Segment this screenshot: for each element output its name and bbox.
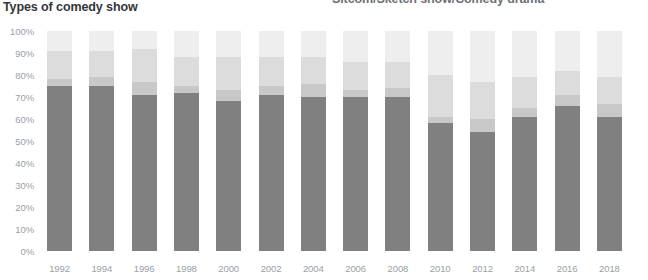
x-axis-tick-label: 2008: [385, 263, 410, 274]
bar-stack: [132, 31, 157, 251]
bar-segment[interactable]: [216, 90, 241, 101]
bar-segment[interactable]: [470, 119, 495, 132]
comedy-show-chart: Types of comedy show Sitcom/Sketch show/…: [0, 0, 648, 280]
bar-stack: [301, 31, 326, 251]
x-axis-tick-label: 2010: [428, 263, 453, 274]
bar-segment[interactable]: [89, 86, 114, 251]
bar-segment[interactable]: [47, 51, 72, 80]
bar-stack: [555, 31, 580, 251]
bar-segment[interactable]: [343, 62, 368, 91]
bar-stack: [343, 31, 368, 251]
bar-group[interactable]: 2016: [555, 0, 580, 280]
bar-segment[interactable]: [385, 62, 410, 88]
bar-group[interactable]: 1992: [47, 0, 72, 280]
x-axis-tick-label: 2000: [216, 263, 241, 274]
bar-segment[interactable]: [259, 86, 284, 95]
bar-segment[interactable]: [174, 86, 199, 93]
bar-stack: [597, 31, 622, 251]
bar-segment[interactable]: [89, 51, 114, 77]
bar-segment[interactable]: [216, 31, 241, 57]
bar-segment[interactable]: [470, 82, 495, 119]
x-axis-tick-label: 2014: [512, 263, 537, 274]
bar-stack: [216, 31, 241, 251]
bar-group[interactable]: 2010: [428, 0, 453, 280]
bar-segment[interactable]: [343, 90, 368, 97]
bar-segment[interactable]: [216, 101, 241, 251]
bar-group[interactable]: 1996: [132, 0, 157, 280]
bar-segment[interactable]: [597, 77, 622, 103]
bar-segment[interactable]: [428, 123, 453, 251]
plot-area: 100%90%80%70%60%50%40%30%20%10%0% 199219…: [0, 0, 648, 280]
bar-segment[interactable]: [174, 31, 199, 57]
x-axis-tick-label: 2012: [470, 263, 495, 274]
bar-segment[interactable]: [301, 57, 326, 83]
bar-segment[interactable]: [47, 31, 72, 51]
bar-segment[interactable]: [132, 95, 157, 251]
bar-segment[interactable]: [470, 31, 495, 82]
bar-stack: [89, 31, 114, 251]
bar-segment[interactable]: [259, 31, 284, 57]
bar-segment[interactable]: [428, 117, 453, 124]
bar-group[interactable]: 2012: [470, 0, 495, 280]
bar-segment[interactable]: [132, 31, 157, 49]
bar-segment[interactable]: [470, 132, 495, 251]
bar-segment[interactable]: [174, 93, 199, 251]
bar-segment[interactable]: [597, 117, 622, 251]
x-axis-tick-label: 2018: [597, 263, 622, 274]
bar-segment[interactable]: [597, 104, 622, 117]
bar-segment[interactable]: [512, 31, 537, 77]
bar-segment[interactable]: [132, 82, 157, 95]
bar-segment[interactable]: [428, 75, 453, 117]
bar-segment[interactable]: [385, 31, 410, 62]
bar-group[interactable]: 2006: [343, 0, 368, 280]
bar-segment[interactable]: [555, 31, 580, 71]
bar-segment[interactable]: [89, 31, 114, 51]
bar-segment[interactable]: [216, 57, 241, 90]
bar-group[interactable]: 2000: [216, 0, 241, 280]
bar-segment[interactable]: [301, 97, 326, 251]
x-axis-tick-label: 1992: [47, 263, 72, 274]
bars-layer: 1992199419961998200020022004200620082010…: [0, 0, 648, 280]
x-axis-tick-label: 2006: [343, 263, 368, 274]
x-axis-tick-label: 1996: [132, 263, 157, 274]
bar-group[interactable]: 2002: [259, 0, 284, 280]
bar-stack: [428, 31, 453, 251]
bar-segment[interactable]: [132, 49, 157, 82]
bar-segment[interactable]: [428, 31, 453, 75]
bar-segment[interactable]: [512, 108, 537, 117]
bar-segment[interactable]: [385, 97, 410, 251]
bar-segment[interactable]: [555, 71, 580, 95]
x-axis-tick-label: 2002: [259, 263, 284, 274]
x-axis-tick-label: 1998: [174, 263, 199, 274]
bar-group[interactable]: 2004: [301, 0, 326, 280]
bar-segment[interactable]: [47, 79, 72, 86]
bar-segment[interactable]: [343, 97, 368, 251]
bar-group[interactable]: 2014: [512, 0, 537, 280]
bar-segment[interactable]: [174, 57, 199, 86]
bar-segment[interactable]: [597, 31, 622, 77]
bar-group[interactable]: 1994: [89, 0, 114, 280]
bar-stack: [512, 31, 537, 251]
x-axis-tick-label: 2016: [555, 263, 580, 274]
x-axis-tick-label: 2004: [301, 263, 326, 274]
bar-group[interactable]: 1998: [174, 0, 199, 280]
bar-stack: [174, 31, 199, 251]
bar-segment[interactable]: [555, 95, 580, 106]
bar-segment[interactable]: [301, 84, 326, 97]
bar-segment[interactable]: [259, 95, 284, 251]
bar-segment[interactable]: [512, 77, 537, 108]
bar-segment[interactable]: [47, 86, 72, 251]
bar-stack: [259, 31, 284, 251]
bar-segment[interactable]: [343, 31, 368, 62]
bar-stack: [47, 31, 72, 251]
bar-segment[interactable]: [259, 57, 284, 86]
bar-group[interactable]: 2008: [385, 0, 410, 280]
bar-segment[interactable]: [512, 117, 537, 251]
bar-stack: [470, 31, 495, 251]
bar-segment[interactable]: [89, 77, 114, 86]
bar-segment[interactable]: [385, 88, 410, 97]
bar-group[interactable]: 2018: [597, 0, 622, 280]
bar-segment[interactable]: [555, 106, 580, 251]
bar-segment[interactable]: [301, 31, 326, 57]
x-axis-tick-label: 1994: [89, 263, 114, 274]
